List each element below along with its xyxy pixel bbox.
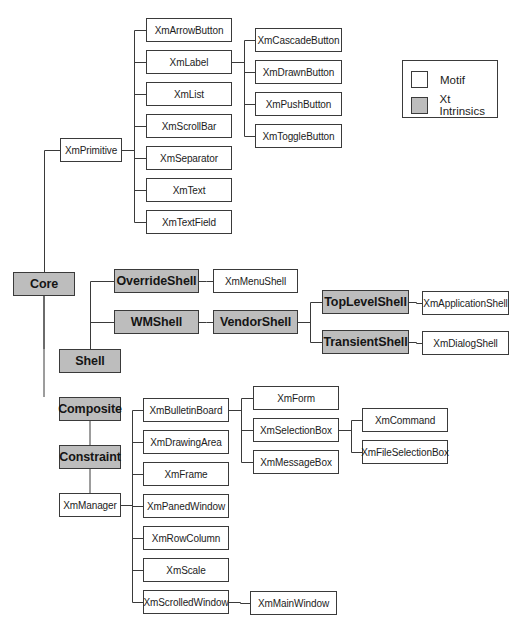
- class-node-xmmessagebox: XmMessageBox: [253, 450, 339, 474]
- class-node-core: Core: [13, 272, 75, 296]
- class-node-xmpanedwindow: XmPanedWindow: [143, 494, 229, 518]
- class-node-xmlabel: XmLabel: [146, 50, 232, 74]
- legend: Motif Xt Intrinsics: [402, 60, 498, 118]
- class-node-constraint: Constraint: [59, 445, 121, 469]
- class-node-xmscrolledwindow: XmScrolledWindow: [143, 590, 229, 614]
- class-node-xmframe: XmFrame: [143, 462, 229, 486]
- class-node-xmdrawingarea: XmDrawingArea: [143, 430, 229, 454]
- class-node-shell: Shell: [59, 349, 121, 373]
- class-node-xmmanager: XmManager: [59, 493, 121, 517]
- class-node-xmarrowbutton: XmArrowButton: [146, 18, 232, 42]
- class-node-vendorshell: VendorShell: [213, 310, 298, 334]
- class-node-xmtogglebutton: XmToggleButton: [255, 124, 342, 148]
- class-node-xmpushbutton: XmPushButton: [255, 92, 342, 116]
- class-node-xmtext: XmText: [146, 178, 232, 202]
- class-node-xmmainwindow: XmMainWindow: [250, 591, 337, 615]
- class-node-xmapplicationshell: XmApplicationShell: [422, 291, 509, 315]
- class-node-xmcommand: XmCommand: [362, 408, 448, 432]
- class-node-xmseparator: XmSeparator: [146, 146, 232, 170]
- class-node-xmfileselectionbox: XmFileSelectionBox: [362, 440, 448, 464]
- class-node-xmbulletinboard: XmBulletinBoard: [143, 398, 229, 422]
- class-node-xmrowcolumn: XmRowColumn: [143, 526, 229, 550]
- class-node-xmscrollbar: XmScrollBar: [146, 114, 232, 138]
- class-node-xmprimitive: XmPrimitive: [60, 138, 122, 162]
- legend-item-xt-intrinsics: Xt Intrinsics: [411, 93, 497, 117]
- class-node-overrideshell: OverrideShell: [114, 269, 199, 293]
- class-node-xmdialogshell: XmDialogShell: [422, 331, 509, 355]
- class-node-xmmenushell: XmMenuShell: [213, 269, 298, 293]
- class-node-wmshell: WMShell: [114, 310, 199, 334]
- motif-swatch-icon: [411, 71, 428, 88]
- class-node-toplevelshell: TopLevelShell: [322, 290, 409, 314]
- class-node-composite: Composite: [59, 397, 121, 421]
- class-node-xmselectionbox: XmSelectionBox: [253, 418, 339, 442]
- class-node-transientshell: TransientShell: [322, 330, 409, 354]
- legend-label-motif: Motif: [440, 74, 465, 86]
- class-node-xmtextfield: XmTextField: [146, 210, 232, 234]
- widget-class-hierarchy-diagram: Motif Xt Intrinsics CoreXmPrimitiveXmArr…: [0, 0, 520, 628]
- class-node-xmdrawnbutton: XmDrawnButton: [255, 60, 342, 84]
- class-node-xmlist: XmList: [146, 82, 232, 106]
- legend-item-motif: Motif: [411, 71, 465, 88]
- xt-intrinsics-swatch-icon: [411, 97, 428, 114]
- class-node-xmform: XmForm: [253, 386, 339, 410]
- legend-label-xt-intrinsics: Xt Intrinsics: [440, 93, 497, 117]
- class-node-xmscale: XmScale: [143, 558, 229, 582]
- class-node-xmcascadebutton: XmCascadeButton: [255, 28, 342, 52]
